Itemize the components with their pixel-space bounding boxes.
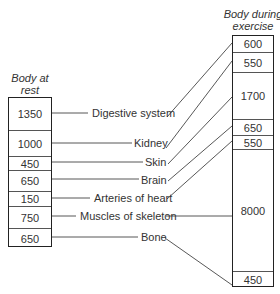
label-kidney: Kidney: [134, 137, 168, 149]
label-brain: Brain: [141, 174, 167, 186]
label-digestive-system: Digestive system: [92, 107, 175, 119]
label-bone: Bone: [141, 231, 167, 243]
label-muscles-of-skeleton: Muscles of skeleton: [80, 210, 177, 222]
label-arteries-of-heart: Arteries of heart: [94, 192, 172, 204]
label-skin: Skin: [145, 156, 166, 168]
